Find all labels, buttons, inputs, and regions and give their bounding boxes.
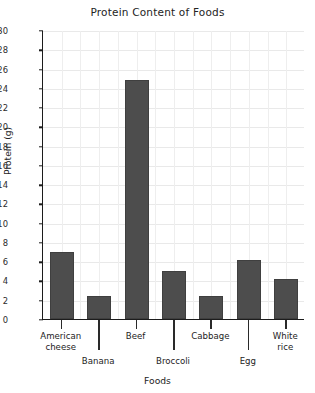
y-tick-mark: [39, 165, 43, 166]
bar: [87, 296, 111, 319]
gridline-horizontal: [43, 185, 304, 186]
gridline-vertical: [193, 31, 194, 319]
gridline-horizontal: [43, 204, 304, 205]
y-tick-label: 30: [0, 26, 8, 36]
y-tick-mark: [39, 146, 43, 147]
y-tick-mark: [39, 127, 43, 128]
gridline-horizontal: [43, 224, 304, 225]
y-tick-label: 8: [0, 238, 8, 248]
y-tick-mark: [39, 319, 43, 320]
x-tick-mark: [285, 320, 287, 329]
y-tick-mark: [39, 50, 43, 51]
y-tick-label: 4: [0, 276, 8, 286]
y-tick-mark: [39, 300, 43, 301]
x-tick-mark: [98, 320, 100, 350]
y-tick-label: 10: [0, 219, 8, 229]
gridline-horizontal: [43, 70, 304, 71]
gridline-horizontal: [43, 262, 304, 263]
y-tick-mark: [39, 69, 43, 70]
x-category-label: Beef: [126, 331, 146, 342]
gridline-vertical: [80, 31, 81, 319]
gridline-vertical: [286, 31, 287, 319]
bar: [125, 80, 149, 319]
gridline-vertical: [230, 31, 231, 319]
y-tick-mark: [39, 242, 43, 243]
bar: [162, 271, 186, 319]
y-tick-label: 6: [0, 257, 8, 267]
bar: [50, 252, 74, 319]
x-axis-label: Foods: [0, 375, 315, 386]
y-tick-label: 24: [0, 84, 8, 94]
bar-chart-figure: Protein Content of Foods Protein (g) 024…: [0, 0, 315, 393]
y-tick-mark: [39, 281, 43, 282]
y-tick-label: 12: [0, 199, 8, 209]
y-tick-mark: [39, 204, 43, 205]
y-tick-mark: [39, 30, 43, 31]
y-tick-label: 14: [0, 180, 8, 190]
y-tick-label: 16: [0, 161, 8, 171]
gridline-horizontal: [43, 50, 304, 51]
gridline-vertical: [155, 31, 156, 319]
y-tick-label: 0: [0, 315, 8, 325]
bar: [237, 260, 261, 319]
gridline-horizontal: [43, 243, 304, 244]
gridline-vertical: [268, 31, 269, 319]
x-tick-mark: [210, 320, 212, 329]
x-category-label: Broccoli: [156, 356, 190, 367]
gridline-horizontal: [43, 31, 304, 32]
x-category-label: Egg: [240, 356, 256, 367]
y-tick-label: 26: [0, 65, 8, 75]
y-tick-mark: [39, 184, 43, 185]
y-tick-mark: [39, 261, 43, 262]
gridline-horizontal: [43, 127, 304, 128]
gridline-vertical: [99, 31, 100, 319]
y-tick-mark: [39, 107, 43, 108]
bar: [274, 279, 298, 319]
plot-area: [42, 31, 304, 320]
gridline-horizontal: [43, 166, 304, 167]
gridline-horizontal: [43, 147, 304, 148]
y-tick-label: 20: [0, 122, 8, 132]
y-tick-label: 28: [0, 45, 8, 55]
y-tick-mark: [39, 88, 43, 89]
x-tick-mark: [248, 320, 250, 350]
x-tick-mark: [61, 320, 63, 329]
y-tick-mark: [39, 223, 43, 224]
chart-title: Protein Content of Foods: [0, 6, 315, 18]
gridline-vertical: [118, 31, 119, 319]
y-tick-label: 18: [0, 142, 8, 152]
y-tick-label: 2: [0, 296, 8, 306]
gridline-vertical: [211, 31, 212, 319]
bar: [199, 296, 223, 319]
gridline-horizontal: [43, 89, 304, 90]
x-category-label: Cabbage: [191, 331, 229, 342]
x-category-label: Banana: [82, 356, 115, 367]
x-tick-mark: [173, 320, 175, 350]
y-tick-label: 22: [0, 103, 8, 113]
x-category-label: White rice: [273, 331, 298, 352]
x-category-label: American cheese: [40, 331, 81, 352]
x-tick-mark: [136, 320, 138, 329]
gridline-horizontal: [43, 108, 304, 109]
